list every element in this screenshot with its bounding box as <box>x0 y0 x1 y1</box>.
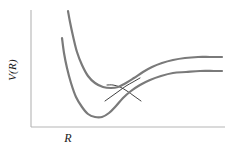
y-axis-label: V(R) <box>6 40 18 100</box>
curve-upper-adiabatic <box>68 11 222 88</box>
curves-group <box>62 11 222 117</box>
x-axis-label: R <box>0 131 234 146</box>
curve-lower-adiabatic <box>62 38 222 117</box>
potential-energy-curve-figure: V(R) R <box>0 0 234 154</box>
